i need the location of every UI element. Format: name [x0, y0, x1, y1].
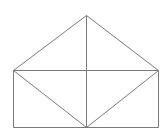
line-diag-right — [87, 71, 159, 128]
house-diagram — [0, 0, 167, 137]
line-diag-left — [14, 71, 87, 128]
line-roof-right — [87, 16, 159, 71]
line-roof-left — [14, 16, 87, 71]
